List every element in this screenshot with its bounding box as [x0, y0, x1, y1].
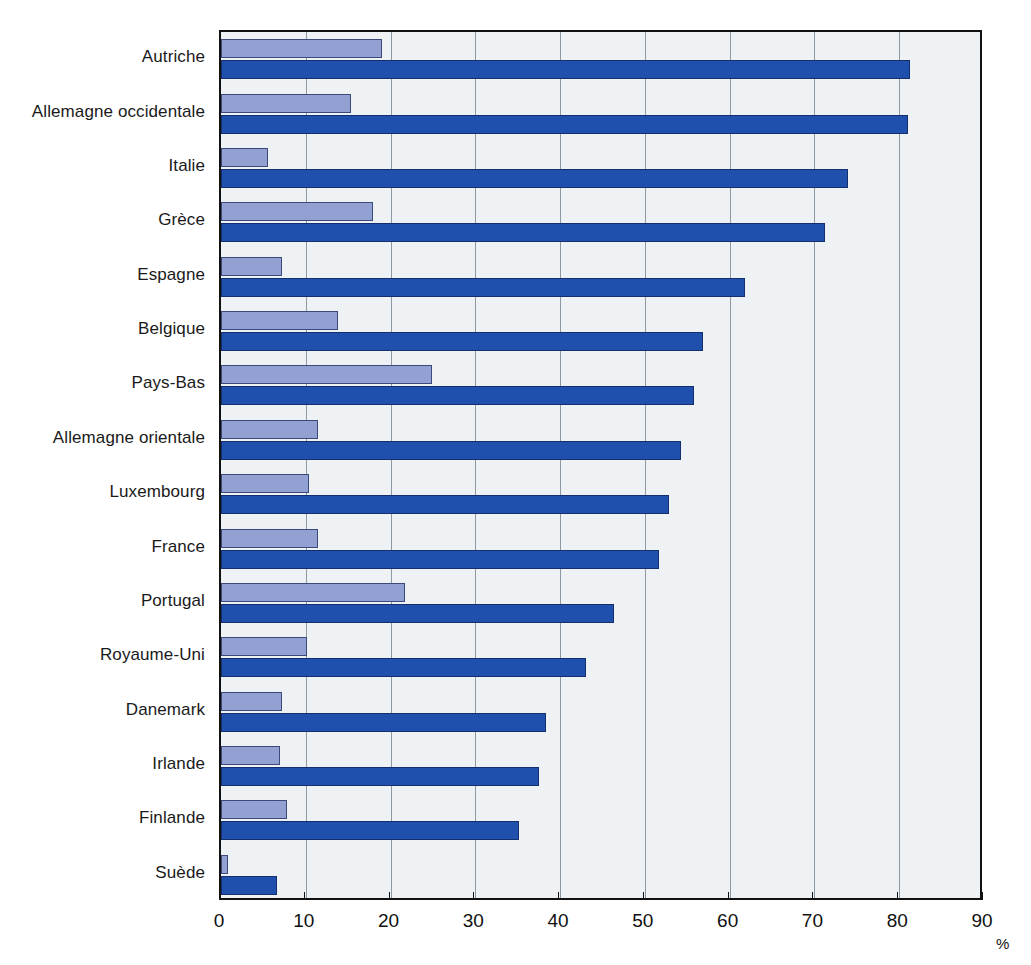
bar-série-foncée-13	[221, 767, 539, 786]
bar-série-foncée-8	[221, 495, 669, 514]
bar-row	[221, 32, 980, 86]
x-tick-label-30: 30	[463, 910, 484, 932]
x-tick-mark-90	[982, 892, 983, 900]
bar-série-claire-10	[221, 583, 405, 602]
bar-row	[221, 250, 980, 304]
bar-série-foncée-5	[221, 332, 703, 351]
bar-row	[221, 195, 980, 249]
category-label-0: Autriche	[0, 47, 205, 67]
category-label-3: Grèce	[0, 210, 205, 230]
category-label-13: Irlande	[0, 754, 205, 774]
bar-série-claire-12	[221, 692, 282, 711]
bar-série-claire-0	[221, 39, 382, 58]
bar-série-foncée-3	[221, 223, 825, 242]
category-label-10: Portugal	[0, 591, 205, 611]
bar-row	[221, 630, 980, 684]
x-tick-mark-10	[304, 892, 305, 900]
bar-série-claire-3	[221, 202, 373, 221]
category-label-15: Suède	[0, 863, 205, 883]
x-tick-label-70: 70	[802, 910, 823, 932]
bar-row	[221, 793, 980, 847]
bar-série-foncée-15	[221, 876, 277, 895]
bar-série-foncée-7	[221, 441, 681, 460]
x-tick-mark-0	[219, 892, 220, 900]
bar-série-claire-11	[221, 637, 307, 656]
bar-row	[221, 413, 980, 467]
bar-row	[221, 848, 980, 902]
bar-série-claire-9	[221, 529, 318, 548]
x-axis-unit-label: %	[996, 935, 1009, 952]
bar-série-foncée-10	[221, 604, 614, 623]
x-tick-label-90: 90	[971, 910, 992, 932]
category-label-8: Luxembourg	[0, 482, 205, 502]
x-tick-label-40: 40	[548, 910, 569, 932]
bar-série-claire-5	[221, 311, 338, 330]
bar-série-claire-7	[221, 420, 318, 439]
x-tick-mark-20	[389, 892, 390, 900]
bar-série-foncée-9	[221, 550, 659, 569]
bar-row	[221, 685, 980, 739]
bar-série-foncée-0	[221, 60, 910, 79]
bar-row	[221, 86, 980, 140]
x-tick-mark-30	[473, 892, 474, 900]
bar-série-claire-15	[221, 855, 228, 874]
bar-série-foncée-2	[221, 169, 848, 188]
x-tick-mark-80	[897, 892, 898, 900]
x-tick-label-80: 80	[887, 910, 908, 932]
plot-area	[219, 30, 982, 900]
bar-série-claire-13	[221, 746, 280, 765]
category-label-7: Allemagne orientale	[0, 428, 205, 448]
bar-série-claire-6	[221, 365, 432, 384]
bar-row	[221, 358, 980, 412]
category-label-9: France	[0, 537, 205, 557]
bar-row-group	[221, 32, 980, 898]
bar-row	[221, 576, 980, 630]
category-label-4: Espagne	[0, 265, 205, 285]
x-tick-mark-40	[558, 892, 559, 900]
bar-série-foncée-1	[221, 115, 908, 134]
bar-série-foncée-6	[221, 386, 694, 405]
bar-série-claire-8	[221, 474, 309, 493]
bar-row	[221, 521, 980, 575]
x-tick-label-60: 60	[717, 910, 738, 932]
category-label-5: Belgique	[0, 319, 205, 339]
bar-série-foncée-4	[221, 278, 745, 297]
bar-série-foncée-12	[221, 713, 546, 732]
x-tick-mark-60	[728, 892, 729, 900]
x-tick-label-20: 20	[378, 910, 399, 932]
category-label-14: Finlande	[0, 808, 205, 828]
category-label-6: Pays-Bas	[0, 373, 205, 393]
x-tick-label-0: 0	[214, 910, 225, 932]
bar-série-foncée-14	[221, 821, 519, 840]
category-label-2: Italie	[0, 156, 205, 176]
bar-série-claire-4	[221, 257, 282, 276]
x-axis: 0102030405060708090	[219, 900, 982, 960]
category-label-column: AutricheAllemagne occidentaleItalieGrèce…	[0, 30, 205, 900]
category-label-11: Royaume-Uni	[0, 645, 205, 665]
bar-série-claire-2	[221, 148, 268, 167]
bar-row	[221, 141, 980, 195]
x-tick-label-10: 10	[293, 910, 314, 932]
x-tick-mark-50	[643, 892, 644, 900]
bar-série-claire-1	[221, 94, 351, 113]
x-tick-mark-70	[812, 892, 813, 900]
x-tick-label-50: 50	[632, 910, 653, 932]
bar-row	[221, 739, 980, 793]
bar-row	[221, 304, 980, 358]
category-label-12: Danemark	[0, 700, 205, 720]
bar-série-foncée-11	[221, 658, 586, 677]
chart-page: AutricheAllemagne occidentaleItalieGrèce…	[0, 0, 1031, 965]
bar-série-claire-14	[221, 800, 287, 819]
category-label-1: Allemagne occidentale	[0, 102, 205, 122]
bar-row	[221, 467, 980, 521]
